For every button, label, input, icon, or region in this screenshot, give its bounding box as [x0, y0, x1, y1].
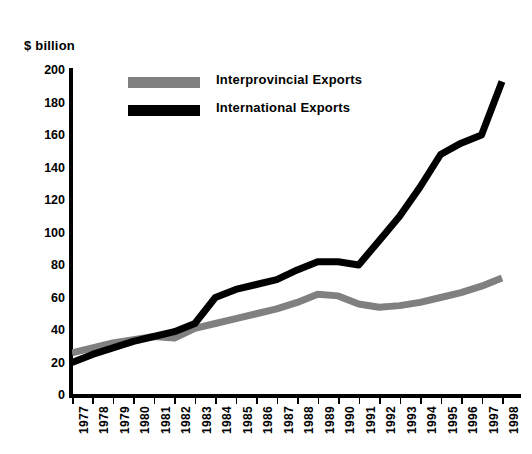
legend-swatch-international [128, 105, 200, 116]
y-tick-20: 20 [25, 356, 65, 370]
x-tick-1997: 1997 [487, 406, 501, 434]
x-tick-mark-1983 [195, 398, 197, 404]
x-tick-mark-1986 [256, 398, 258, 404]
x-tick-1991: 1991 [364, 406, 378, 434]
y-tick-80: 80 [25, 258, 65, 272]
x-tick-mark-1993 [400, 398, 402, 404]
y-tick-60: 60 [25, 291, 65, 305]
y-tick-100: 100 [25, 226, 65, 240]
y-axis-tick-labels: 020406080100120140160180200 [20, 0, 65, 454]
x-tick-1983: 1983 [200, 406, 214, 434]
y-tick-180: 180 [25, 96, 65, 110]
x-tick-1995: 1995 [446, 406, 460, 434]
x-tick-mark-1990 [338, 398, 340, 404]
x-tick-1985: 1985 [241, 406, 255, 434]
x-tick-1990: 1990 [343, 406, 357, 434]
y-tick-200: 200 [25, 63, 65, 77]
x-tick-mark-1992 [379, 398, 381, 404]
x-tick-1989: 1989 [323, 406, 337, 434]
x-tick-mark-1982 [174, 398, 176, 404]
x-tick-1981: 1981 [159, 406, 173, 434]
x-tick-1992: 1992 [384, 406, 398, 434]
legend-label-international: International Exports [216, 100, 350, 115]
x-tick-mark-1984 [215, 398, 217, 404]
x-tick-1988: 1988 [302, 406, 316, 434]
y-tick-40: 40 [25, 323, 65, 337]
x-tick-1982: 1982 [179, 406, 193, 434]
x-tick-mark-1988 [297, 398, 299, 404]
exports-line-chart: $ billion 020406080100120140160180200 19… [0, 0, 532, 454]
legend-item-international: International Exports [128, 100, 408, 128]
x-tick-mark-1985 [236, 398, 238, 404]
x-tick-1994: 1994 [425, 406, 439, 434]
x-tick-mark-1978 [92, 398, 94, 404]
y-tick-120: 120 [25, 193, 65, 207]
y-tick-0: 0 [25, 388, 65, 402]
x-tick-mark-1997 [482, 398, 484, 404]
legend-label-interprovincial: Interprovincial Exports [216, 72, 362, 87]
x-tick-1993: 1993 [405, 406, 419, 434]
x-tick-1998: 1998 [507, 406, 521, 434]
x-tick-mark-1977 [72, 398, 74, 404]
chart-legend: Interprovincial Exports International Ex… [128, 72, 408, 128]
x-tick-mark-1994 [420, 398, 422, 404]
y-tick-140: 140 [25, 161, 65, 175]
x-tick-mark-1996 [461, 398, 463, 404]
x-tick-mark-1989 [318, 398, 320, 404]
x-tick-1980: 1980 [138, 406, 152, 434]
x-tick-1979: 1979 [118, 406, 132, 434]
x-tick-mark-1995 [441, 398, 443, 404]
x-tick-1987: 1987 [282, 406, 296, 434]
x-tick-1996: 1996 [466, 406, 480, 434]
x-tick-mark-1987 [277, 398, 279, 404]
x-tick-mark-1981 [154, 398, 156, 404]
x-tick-1977: 1977 [77, 406, 91, 434]
legend-item-interprovincial: Interprovincial Exports [128, 72, 408, 100]
x-tick-mark-1979 [113, 398, 115, 404]
x-tick-mark-1991 [359, 398, 361, 404]
x-tick-1978: 1978 [97, 406, 111, 434]
legend-swatch-interprovincial [128, 77, 200, 88]
x-tick-mark-1998 [502, 398, 504, 404]
x-tick-mark-1980 [133, 398, 135, 404]
x-tick-1984: 1984 [220, 406, 234, 434]
y-tick-160: 160 [25, 128, 65, 142]
x-tick-1986: 1986 [261, 406, 275, 434]
